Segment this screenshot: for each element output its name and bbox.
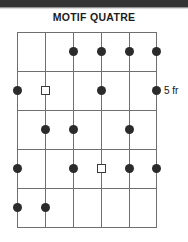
root-r2-s2 (41, 86, 50, 95)
note-r3-s2 (41, 125, 50, 134)
note-r2-s4 (97, 86, 106, 95)
note-r4-s1 (13, 164, 22, 173)
note-r2-s1 (13, 86, 22, 95)
fret-line-0 (17, 32, 157, 33)
string-line-4 (101, 32, 102, 227)
note-r1-s6 (152, 47, 161, 56)
note-r3-s3 (69, 125, 78, 134)
note-r5-s2 (41, 203, 50, 212)
note-r4-s3 (69, 164, 78, 173)
string-line-1 (17, 32, 18, 227)
fret-position-label: 5 fr (164, 85, 178, 96)
fret-line-1 (17, 71, 157, 72)
string-line-6 (156, 32, 157, 227)
note-r5-s1 (13, 203, 22, 212)
fret-line-5 (17, 227, 157, 228)
note-r4-s6 (152, 164, 161, 173)
fret-line-3 (17, 149, 157, 150)
fret-line-2 (17, 110, 157, 111)
note-r1-s5 (125, 47, 134, 56)
fret-line-4 (17, 188, 157, 189)
note-r1-s4 (97, 47, 106, 56)
note-r3-s5 (125, 125, 134, 134)
note-r2-s6 (152, 86, 161, 95)
fretboard-diagram (0, 0, 188, 242)
root-r4-s4 (97, 164, 106, 173)
note-r1-s3 (69, 47, 78, 56)
note-r4-s5 (125, 164, 134, 173)
